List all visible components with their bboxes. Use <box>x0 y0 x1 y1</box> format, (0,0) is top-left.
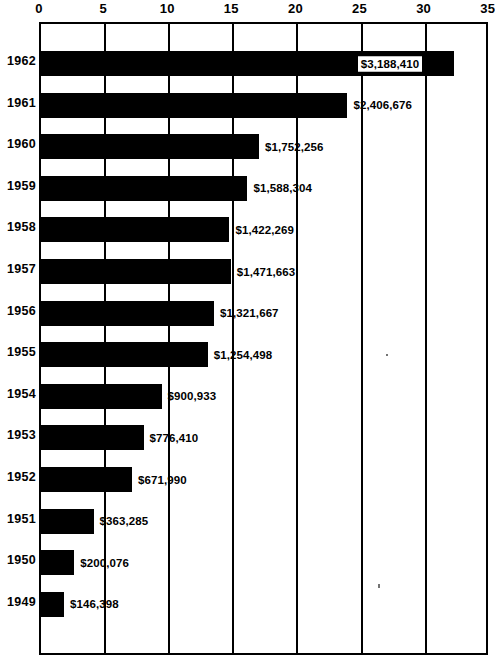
bar-row: $2,406,676 <box>41 93 486 118</box>
bar-1950 <box>41 550 74 575</box>
bar-row: $200,076 <box>41 550 486 575</box>
bar-1954 <box>41 384 162 409</box>
bar-value-label-1957: $1,471,663 <box>237 266 296 278</box>
x-axis-tick-0: 0 <box>35 2 42 16</box>
bar-value-label-1952: $671,990 <box>138 474 187 486</box>
year-label-1961: 1961 <box>0 97 36 110</box>
bar-value-label-1959: $1,588,304 <box>253 182 312 194</box>
year-label-1956: 1956 <box>0 305 36 318</box>
bar-value-label-1950: $200,076 <box>80 557 129 569</box>
year-label-1955: 1955 <box>0 346 36 359</box>
bar-row: $1,254,498 <box>41 342 486 367</box>
bar-value-label-1962: $3,188,410 <box>358 56 423 71</box>
x-axis-tick-30: 30 <box>416 2 431 16</box>
bar-row: $671,990 <box>41 467 486 492</box>
bar-row: $3,188,410 <box>41 51 486 76</box>
bar-value-label-1953: $776,410 <box>150 432 199 444</box>
bar-chart: 05101520253035 1962196119601959195819571… <box>0 0 495 672</box>
bar-1956 <box>41 301 214 326</box>
bar-1952 <box>41 467 132 492</box>
bar-value-label-1954: $900,933 <box>168 390 217 402</box>
year-label-1962: 1962 <box>0 55 36 68</box>
scan-speck <box>386 354 388 356</box>
x-axis-tick-35: 35 <box>480 2 495 16</box>
bar-1961 <box>41 93 347 118</box>
bar-value-label-1958: $1,422,269 <box>235 224 294 236</box>
bar-1957 <box>41 259 231 284</box>
bar-value-label-1960: $1,752,256 <box>265 141 324 153</box>
bar-value-label-1951: $363,285 <box>100 515 149 527</box>
scan-speck <box>378 584 380 588</box>
bar-value-label-1961: $2,406,676 <box>353 99 412 111</box>
year-label-1950: 1950 <box>0 554 36 567</box>
x-axis-tick-5: 5 <box>99 2 106 16</box>
bar-row: $1,752,256 <box>41 134 486 159</box>
year-label-1951: 1951 <box>0 513 36 526</box>
x-axis-tick-10: 10 <box>160 2 175 16</box>
year-label-1954: 1954 <box>0 388 36 401</box>
bar-1959 <box>41 176 247 201</box>
bar-value-label-1956: $1,321,667 <box>220 307 279 319</box>
bar-1951 <box>41 509 94 534</box>
bar-row: $1,422,269 <box>41 217 486 242</box>
bar-1955 <box>41 342 208 367</box>
year-label-1957: 1957 <box>0 263 36 276</box>
bar-row: $363,285 <box>41 509 486 534</box>
bar-1953 <box>41 425 144 450</box>
bar-1958 <box>41 217 229 242</box>
bar-row: $1,471,663 <box>41 259 486 284</box>
year-label-1952: 1952 <box>0 471 36 484</box>
year-label-1959: 1959 <box>0 180 36 193</box>
bar-row: $1,588,304 <box>41 176 486 201</box>
bar-row: $1,321,667 <box>41 301 486 326</box>
x-axis-tick-25: 25 <box>352 2 367 16</box>
bars-layer: $3,188,410$2,406,676$1,752,256$1,588,304… <box>41 24 486 653</box>
plot-area: $3,188,410$2,406,676$1,752,256$1,588,304… <box>39 22 488 655</box>
bar-row: $146,398 <box>41 592 486 617</box>
bar-1949 <box>41 592 64 617</box>
x-axis-tick-20: 20 <box>288 2 303 16</box>
bar-row: $900,933 <box>41 384 486 409</box>
bar-row: $776,410 <box>41 425 486 450</box>
year-label-1958: 1958 <box>0 221 36 234</box>
year-label-1949: 1949 <box>0 596 36 609</box>
year-label-1960: 1960 <box>0 138 36 151</box>
bar-value-label-1949: $146,398 <box>70 598 119 610</box>
bar-value-label-1955: $1,254,498 <box>214 349 273 361</box>
bar-1960 <box>41 134 259 159</box>
year-label-1953: 1953 <box>0 429 36 442</box>
x-axis-tick-15: 15 <box>224 2 239 16</box>
